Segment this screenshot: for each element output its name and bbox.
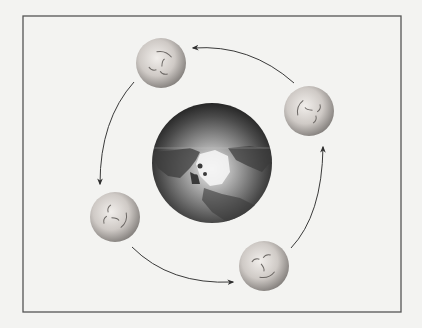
- diagram-stage: [0, 0, 422, 328]
- arrow-left-to-bottom: [132, 247, 233, 282]
- moon-right: [284, 86, 334, 136]
- arrow-right-to-top: [193, 48, 294, 83]
- arrow-bottom-to-right: [291, 147, 323, 248]
- moon-left: [90, 192, 140, 242]
- earth-globe: [152, 103, 272, 224]
- moon-top: [136, 38, 186, 88]
- moon-orbit-diagram: [0, 0, 422, 328]
- moon-bottom: [239, 241, 289, 291]
- arrow-top-to-left: [100, 82, 134, 184]
